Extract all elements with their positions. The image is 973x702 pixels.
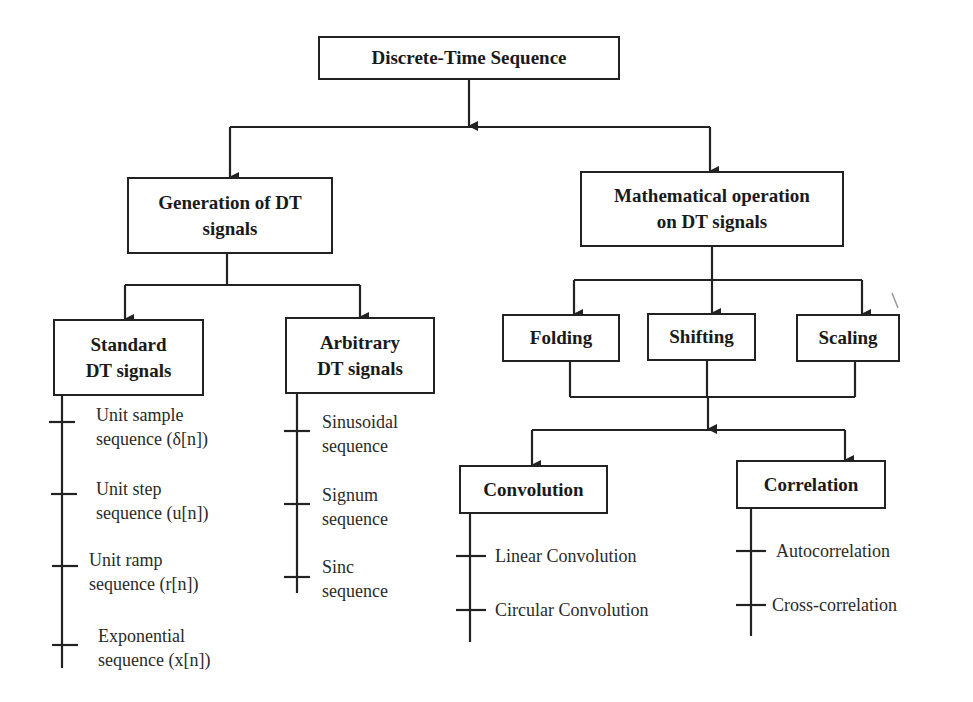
item-line1: Signum (322, 483, 388, 507)
node-shifting: Shifting (647, 313, 756, 361)
item-line1: Sinusoidal (322, 410, 398, 434)
node-label: Shifting (669, 324, 733, 350)
correlation-item-cross-correlation: Cross-correlation (772, 593, 897, 617)
node-scaling: Scaling (796, 314, 900, 362)
item-line1: Unit step (96, 477, 208, 501)
correlation-item-autocorrelation: Autocorrelation (776, 539, 890, 563)
root-node-discrete-time-sequence: Discrete-Time Sequence (318, 36, 620, 80)
item-label: Circular Convolution (495, 600, 648, 620)
arbitrary-item-signum: Signum sequence (322, 483, 388, 531)
item-label: Cross-correlation (772, 595, 897, 615)
node-mathematical-operation: Mathematical operation on DT signals (580, 171, 844, 247)
standard-item-exponential: Exponential sequence (x[n]) (98, 624, 210, 672)
standard-item-unit-sample: Unit sample sequence (δ[n]) (96, 403, 208, 451)
convolution-item-circular: Circular Convolution (495, 598, 648, 622)
node-label: Folding (530, 325, 592, 351)
node-arbitrary-dt-signals: Arbitrary DT signals (285, 317, 435, 394)
item-line1: Sinc (322, 555, 388, 579)
item-line2: sequence (r[n]) (89, 572, 198, 596)
item-line2: sequence (δ[n]) (96, 427, 208, 451)
item-line2: sequence (322, 579, 388, 603)
item-line2: sequence (322, 507, 388, 531)
item-line1: Exponential (98, 624, 210, 648)
item-line2: sequence (322, 434, 398, 458)
node-convolution: Convolution (459, 465, 608, 514)
item-line2: sequence (x[n]) (98, 648, 210, 672)
convolution-item-linear: Linear Convolution (495, 544, 636, 568)
arbitrary-item-sinusoidal: Sinusoidal sequence (322, 410, 398, 458)
node-label-line2: DT signals (86, 358, 172, 384)
item-label: Linear Convolution (495, 546, 636, 566)
item-line2: sequence (u[n]) (96, 501, 208, 525)
item-label: Autocorrelation (776, 541, 890, 561)
standard-item-unit-step: Unit step sequence (u[n]) (96, 477, 208, 525)
node-label: Convolution (483, 477, 583, 503)
node-label-line1: Mathematical operation (614, 183, 810, 209)
node-label-line2: signals (203, 216, 258, 242)
node-standard-dt-signals: Standard DT signals (53, 319, 204, 396)
item-line1: Unit ramp (89, 548, 198, 572)
node-generation-of-dt-signals: Generation of DT signals (127, 177, 333, 254)
item-line1: Unit sample (96, 403, 208, 427)
node-folding: Folding (502, 314, 620, 362)
node-label: Scaling (818, 325, 877, 351)
node-label-line1: Generation of DT (158, 190, 302, 216)
node-correlation: Correlation (736, 460, 886, 509)
standard-item-unit-ramp: Unit ramp sequence (r[n]) (89, 548, 198, 596)
node-label-line2: DT signals (317, 356, 403, 382)
node-label-line1: Standard (90, 332, 166, 358)
root-node-label: Discrete-Time Sequence (371, 45, 566, 71)
node-label-line2: on DT signals (657, 209, 768, 235)
arbitrary-item-sinc: Sinc sequence (322, 555, 388, 603)
node-label: Correlation (764, 472, 859, 498)
node-label-line1: Arbitrary (320, 330, 400, 356)
